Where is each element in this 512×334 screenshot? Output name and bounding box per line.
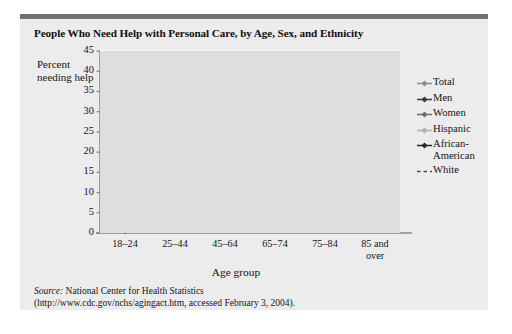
legend-diamond-marker-icon: [416, 124, 433, 137]
legend-item-total[interactable]: Total: [416, 76, 508, 90]
y-axis-tick-label: 45: [72, 44, 94, 55]
chart-legend: TotalMenWomenHispanicAfrican- AmericanWh…: [416, 76, 508, 180]
legend-marker: [421, 96, 427, 102]
y-axis-tick-label: 15: [72, 165, 94, 176]
y-axis-tick-label: 5: [72, 206, 94, 217]
legend-item-label: Hispanic: [433, 123, 471, 135]
source-line-1: National Center for Health Statistics: [63, 286, 204, 296]
y-axis-tick-label: 30: [72, 105, 94, 116]
legend-item-african-american[interactable]: African- American: [416, 138, 508, 163]
legend-item-label: Women: [433, 107, 466, 119]
figure-card: People Who Need Help with Personal Care,…: [20, 14, 488, 310]
legend-dashed-line-icon: [416, 165, 433, 178]
plot-area: [100, 51, 400, 233]
x-axis-title: Age group: [106, 266, 366, 278]
y-axis-tick-label: 40: [72, 64, 94, 75]
legend-item-label: Total: [433, 76, 455, 88]
legend-item-hispanic[interactable]: Hispanic: [416, 123, 508, 137]
legend-item-white[interactable]: White: [416, 164, 508, 178]
y-axis-tick-label: 0: [72, 226, 94, 237]
y-axis-tick-label: 35: [72, 84, 94, 95]
y-axis-tick-label: 20: [72, 145, 94, 156]
y-axis-tick-label: 10: [72, 186, 94, 197]
legend-item-women[interactable]: Women: [416, 107, 508, 121]
source-line-2: (http://www.cdc.gov/nchs/agingact.htm, a…: [34, 298, 295, 308]
legend-marker: [421, 80, 427, 86]
legend-item-label: African- American: [433, 138, 475, 163]
legend-diamond-marker-icon: [416, 77, 433, 90]
legend-item-label: White: [433, 164, 459, 176]
legend-marker: [421, 111, 427, 117]
legend-diamond-marker-icon: [416, 93, 433, 106]
legend-diamond-marker-icon: [416, 139, 433, 152]
legend-marker: [421, 142, 427, 148]
y-axis-tick-label: 25: [72, 125, 94, 136]
legend-item-men[interactable]: Men: [416, 92, 508, 106]
legend-item-label: Men: [433, 92, 452, 104]
source-label: Source:: [34, 286, 63, 296]
source-note: Source: National Center for Health Stati…: [34, 286, 474, 309]
legend-diamond-marker-icon: [416, 108, 433, 121]
x-axis-tick-label: 85 and over: [346, 238, 404, 262]
legend-marker: [421, 127, 427, 133]
